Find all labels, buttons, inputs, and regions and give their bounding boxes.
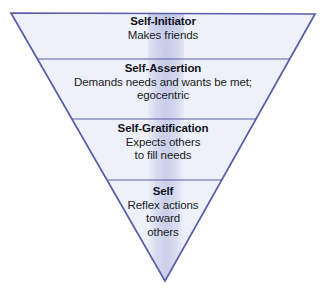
- tier-self-assertion-title: Self-Assertion: [0, 62, 326, 76]
- tier-self-initiator-description: Makes friends: [0, 29, 326, 43]
- tier-self-gratification-title: Self-Gratification: [0, 122, 326, 136]
- tier-self-initiator: Self-Initiator Makes friends: [0, 15, 326, 42]
- tier-self-line-1: Reflex actions: [0, 199, 326, 213]
- tier-self-line-2: toward: [0, 212, 326, 226]
- tier-self-assertion: Self-Assertion Demands needs and wants b…: [0, 62, 326, 103]
- tier-self-assertion-line-1: Demands needs and wants be met;: [0, 76, 326, 90]
- tier-self-assertion-line-2: egocentric: [0, 89, 326, 103]
- tier-self-assertion-description: Demands needs and wants be met; egocentr…: [0, 76, 326, 103]
- tier-self-line-3: others: [0, 226, 326, 240]
- tier-self-initiator-line-1: Makes friends: [0, 29, 326, 43]
- tier-self-title: Self: [0, 185, 326, 199]
- tier-self: Self Reflex actions toward others: [0, 185, 326, 239]
- self-development-diagram: Self-Initiator Makes friends Self-Assert…: [0, 0, 326, 289]
- tier-self-gratification-line-1: Expects others: [0, 136, 326, 150]
- tier-self-gratification: Self-Gratification Expects others to fil…: [0, 122, 326, 163]
- tier-self-gratification-line-2: to fill needs: [0, 149, 326, 163]
- tier-self-initiator-title: Self-Initiator: [0, 15, 326, 29]
- tier-self-gratification-description: Expects others to fill needs: [0, 136, 326, 163]
- tier-self-description: Reflex actions toward others: [0, 199, 326, 240]
